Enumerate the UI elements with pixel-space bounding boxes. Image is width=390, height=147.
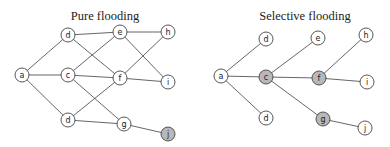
node-label: d bbox=[65, 31, 70, 40]
node-label: d bbox=[263, 114, 268, 123]
node-label: e bbox=[316, 34, 321, 43]
edge-c-f bbox=[68, 75, 120, 78]
node-d2: d bbox=[61, 113, 75, 127]
edge-a-d2 bbox=[221, 76, 266, 118]
pure-flooding-title: Pure flooding bbox=[71, 9, 140, 23]
node-label: g bbox=[121, 120, 126, 129]
edge-d1-f bbox=[68, 35, 120, 78]
edge-d2-g bbox=[68, 120, 124, 124]
node-c: c bbox=[259, 70, 273, 84]
node-e: e bbox=[311, 31, 325, 45]
node-h: h bbox=[359, 28, 373, 42]
node-label: a bbox=[219, 72, 224, 81]
pure-flooding-nodes: adcdefghij bbox=[15, 25, 175, 141]
node-label: h bbox=[363, 31, 368, 40]
pure-flooding-edges bbox=[22, 32, 168, 134]
selective-flooding-nodes: adcdefghij bbox=[214, 28, 374, 135]
node-d1: d bbox=[61, 28, 75, 42]
node-j: j bbox=[358, 121, 372, 135]
node-label: a bbox=[20, 71, 25, 80]
node-label: j bbox=[363, 124, 366, 133]
node-j: j bbox=[161, 127, 175, 141]
node-label: i bbox=[167, 78, 169, 87]
edge-a-d1 bbox=[221, 39, 266, 76]
edge-f-h bbox=[319, 35, 366, 78]
flooding-diagrams: Pure flooding adcdefghij Selective flood… bbox=[0, 0, 390, 147]
node-g: g bbox=[117, 117, 131, 131]
selective-flooding-title: Selective flooding bbox=[259, 9, 351, 23]
node-a: a bbox=[214, 69, 228, 83]
edge-c-f bbox=[266, 77, 319, 78]
node-label: j bbox=[166, 130, 169, 139]
node-i: i bbox=[161, 75, 175, 89]
edge-d1-e bbox=[68, 32, 120, 35]
node-label: d bbox=[65, 116, 70, 125]
node-e: e bbox=[113, 25, 127, 39]
node-g: g bbox=[316, 112, 330, 126]
node-label: e bbox=[118, 28, 123, 37]
node-h: h bbox=[161, 25, 175, 39]
node-label: f bbox=[318, 74, 321, 83]
node-f: f bbox=[312, 71, 326, 85]
node-label: c bbox=[264, 73, 268, 82]
pure-flooding-diagram: Pure flooding adcdefghij bbox=[15, 9, 175, 141]
node-a: a bbox=[15, 68, 29, 82]
node-i: i bbox=[360, 75, 374, 89]
node-f: f bbox=[113, 71, 127, 85]
node-label: c bbox=[66, 71, 70, 80]
node-d1: d bbox=[259, 32, 273, 46]
edge-c-e bbox=[68, 32, 120, 75]
node-label: f bbox=[119, 74, 122, 83]
selective-flooding-diagram: Selective flooding adcdefghij bbox=[214, 9, 374, 135]
edge-c-e bbox=[266, 38, 318, 77]
edge-a-d1 bbox=[22, 35, 68, 75]
node-label: h bbox=[165, 28, 170, 37]
node-label: i bbox=[366, 78, 368, 87]
node-c: c bbox=[61, 68, 75, 82]
selective-flooding-edges bbox=[221, 35, 367, 128]
node-label: g bbox=[320, 115, 325, 124]
node-d2: d bbox=[259, 111, 273, 125]
edge-a-d2 bbox=[22, 75, 68, 120]
node-label: d bbox=[263, 35, 268, 44]
